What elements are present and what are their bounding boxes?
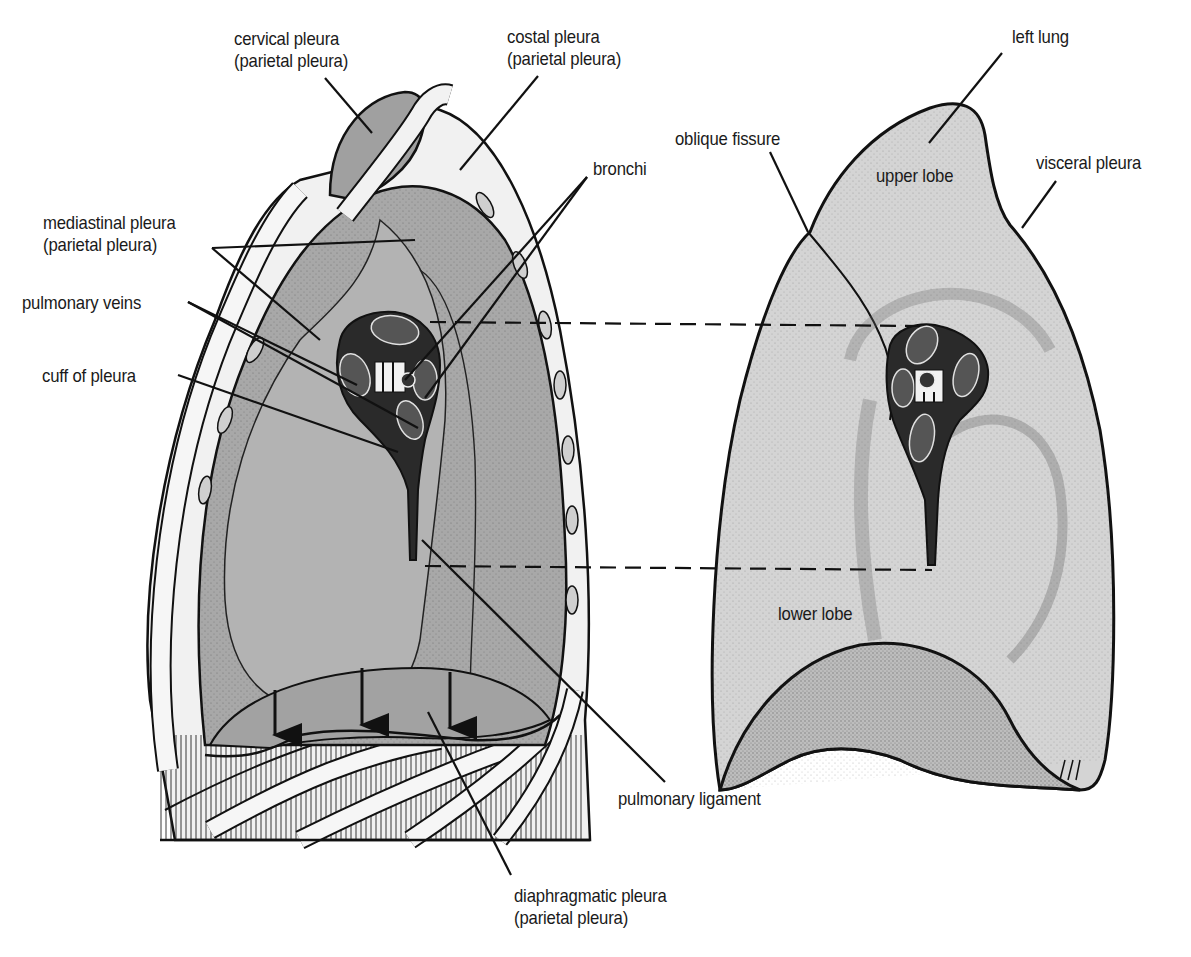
label-oblique-fissure: oblique fissure xyxy=(675,128,780,150)
diagram-artwork xyxy=(0,0,1191,957)
label-costal-pleura: costal pleura (parietal pleura) xyxy=(507,26,621,70)
label-upper-lobe: upper lobe xyxy=(876,165,953,187)
label-diaphragmatic-pleura: diaphragmatic pleura (parietal pleura) xyxy=(514,885,667,929)
leader-oblique-fissure xyxy=(770,152,808,232)
label-cervical-pleura: cervical pleura (parietal pleura) xyxy=(234,28,348,72)
label-lower-lobe: lower lobe xyxy=(778,603,852,625)
label-pulmonary-ligament: pulmonary ligament xyxy=(618,788,761,810)
pleura-anatomy-figure: cervical pleura (parietal pleura) costal… xyxy=(0,0,1191,957)
thoracic-cavity-panel xyxy=(148,92,590,840)
leader-costal-pleura xyxy=(460,76,538,170)
label-left-lung: left lung xyxy=(1012,26,1069,48)
leader-visceral-pleura xyxy=(1022,181,1056,228)
label-pulmonary-veins: pulmonary veins xyxy=(22,292,141,314)
label-cuff-of-pleura: cuff of pleura xyxy=(42,365,136,387)
left-lung-panel xyxy=(712,104,1113,790)
label-mediastinal-pleura: mediastinal pleura (parietal pleura) xyxy=(43,212,176,256)
label-bronchi: bronchi xyxy=(593,158,647,180)
leader-cervical-pleura xyxy=(325,78,372,133)
label-visceral-pleura: visceral pleura xyxy=(1036,152,1141,174)
